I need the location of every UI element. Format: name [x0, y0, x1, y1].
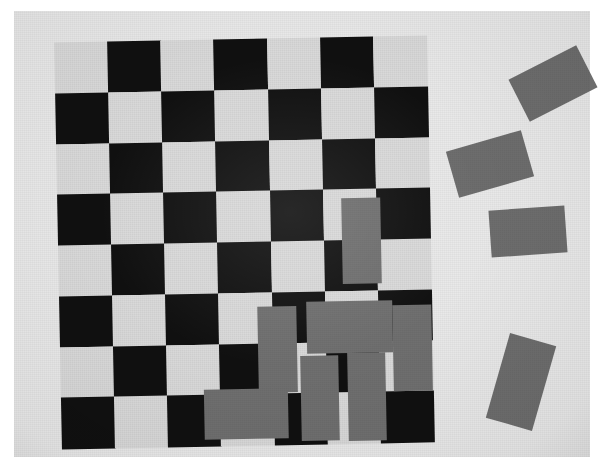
blocks-on-board-layer — [54, 35, 434, 448]
block-1 — [341, 197, 382, 284]
loose-2 — [446, 130, 534, 198]
block-2 — [257, 306, 298, 393]
block-4 — [392, 304, 433, 391]
loose-3 — [488, 205, 567, 257]
loose-4 — [486, 333, 556, 431]
block-5 — [300, 355, 340, 441]
block-3 — [306, 300, 393, 354]
photo-surface — [14, 11, 590, 457]
scene-root — [0, 0, 604, 467]
block-6 — [347, 352, 387, 441]
loose-1 — [508, 45, 597, 121]
block-7 — [204, 388, 289, 440]
